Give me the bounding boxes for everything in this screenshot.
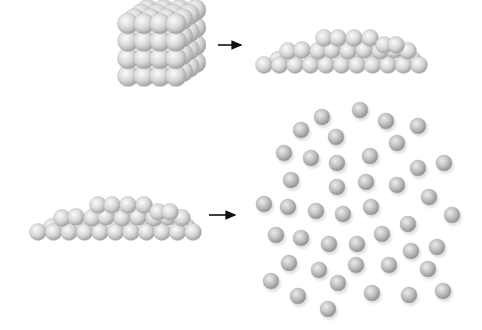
gas-particle	[389, 135, 405, 151]
particle-sphere	[68, 209, 85, 226]
gas-particle	[293, 122, 309, 138]
gas-particle	[378, 113, 394, 129]
particle-sphere	[411, 57, 428, 74]
gas-particle	[328, 129, 344, 145]
gas-particle	[290, 288, 306, 304]
gas-particle	[321, 236, 337, 252]
gas-particle	[335, 206, 351, 222]
solid-cube	[118, 0, 207, 87]
gas-particle	[349, 236, 365, 252]
phase-change-diagram	[0, 0, 482, 330]
gas-particle	[352, 102, 368, 118]
particle-sphere	[330, 30, 347, 47]
gas-particle	[329, 179, 345, 195]
gas-particle	[421, 189, 437, 205]
gas-particle	[389, 177, 405, 193]
gas-particle	[256, 196, 272, 212]
gas-particle	[444, 207, 460, 223]
particle-sphere	[388, 37, 405, 54]
gas-particle	[362, 148, 378, 164]
liquid-puddle-bottom	[30, 197, 202, 241]
gas-particle	[268, 227, 284, 243]
arrows	[209, 45, 241, 215]
gas-particle	[381, 257, 397, 273]
gas-particle	[276, 145, 292, 161]
gas-particle	[400, 216, 416, 232]
gas-particle	[329, 155, 345, 171]
gas-particle	[429, 239, 445, 255]
gas-particle	[374, 226, 390, 242]
gas-particle	[363, 199, 379, 215]
gas-particle	[410, 118, 426, 134]
gas-particle	[420, 261, 436, 277]
gas-particle	[403, 243, 419, 259]
gas-particle	[435, 283, 451, 299]
particle-sphere	[185, 224, 202, 241]
gas-particle	[263, 273, 279, 289]
gas-particle	[293, 230, 309, 246]
gas-particle	[280, 199, 296, 215]
particle-sphere	[30, 224, 47, 241]
gas-particle	[364, 285, 380, 301]
particle-sphere	[104, 197, 121, 214]
particle-sphere	[256, 57, 273, 74]
gas-particle	[401, 287, 417, 303]
gas-particle	[348, 257, 364, 273]
particle-sphere	[346, 30, 363, 47]
gas-particle	[281, 255, 297, 271]
gas-particle	[436, 155, 452, 171]
gas-particles	[256, 102, 462, 320]
gas-particle	[320, 301, 336, 317]
gas-particle	[410, 160, 426, 176]
particle-sphere	[294, 42, 311, 59]
particle-sphere	[166, 13, 187, 34]
particle-sphere	[120, 197, 137, 214]
gas-particle	[303, 150, 319, 166]
gas-particle	[311, 262, 327, 278]
particle-sphere	[162, 204, 179, 221]
gas-particle	[308, 203, 324, 219]
gas-particle	[330, 275, 346, 291]
gas-particle	[283, 172, 299, 188]
liquid-puddle-top	[256, 30, 428, 74]
gas-particle	[314, 109, 330, 125]
gas-particle	[358, 174, 374, 190]
